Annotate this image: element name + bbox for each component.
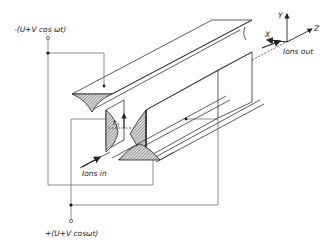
top-terminal [46,36,49,39]
axis-z-label: Z [313,24,320,33]
ions-out-label: Ions out [283,47,314,56]
ions-in-label: Ions in [82,169,107,178]
bottom-voltage-label: +(U+V cosωt) [45,229,98,238]
axis-x-label: X [264,30,271,39]
quadrupole-diagram: r0 Y Z X -(U+V cos ωt) +(U+V cosωt) Ions… [0,0,332,250]
top-voltage-label: -(U+V cos ωt) [14,25,66,34]
bottom-terminal [69,219,72,222]
coordinate-axes: Y Z X [264,11,320,42]
axis-y-label: Y [278,11,284,20]
